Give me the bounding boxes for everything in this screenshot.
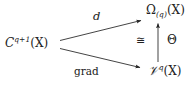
arrow-label-cong: ≅ — [136, 35, 145, 46]
node-omega-subscript: (q) — [156, 10, 167, 19]
arrow-label-theta: Θ — [167, 34, 177, 46]
node-v-q: 𝒱q(X) — [148, 64, 182, 77]
arrow-grad — [60, 49, 140, 68]
node-omega-base: Ω — [146, 3, 156, 17]
node-v-q-argument: (X) — [164, 64, 182, 78]
node-domain-superscript: q+1 — [14, 35, 30, 44]
arrow-d — [60, 21, 141, 41]
node-v-q-base: 𝒱 — [148, 63, 159, 78]
node-domain-base: C — [5, 36, 14, 50]
arrow-label-grad: grad — [74, 66, 99, 77]
node-domain-argument: (X) — [30, 36, 48, 50]
node-omega-argument: (X) — [167, 3, 185, 17]
node-domain-c: Cq+1(X) — [5, 36, 48, 49]
commutative-diagram: Cq+1(X) Ω(q)(X) 𝒱q(X) d grad ≅ Θ — [0, 0, 193, 86]
node-omega: Ω(q)(X) — [146, 4, 185, 19]
arrow-label-d: d — [93, 11, 100, 23]
